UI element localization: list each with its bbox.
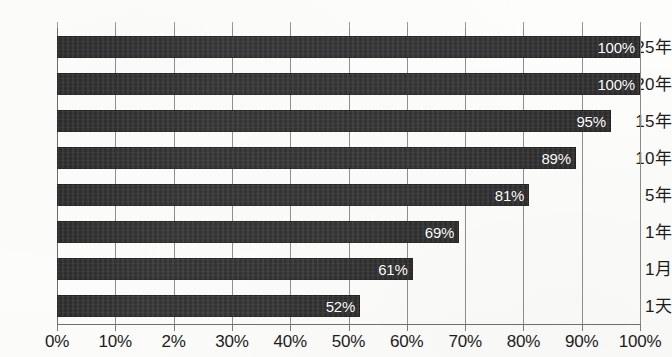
x-tick-label-5: 50% (332, 333, 365, 350)
tick-bottom-9 (582, 325, 583, 331)
tick-bottom-3 (232, 325, 233, 331)
bar-row: 100% (57, 73, 640, 95)
bar-row: 100% (57, 36, 640, 58)
bar-1年: 69% (57, 221, 459, 243)
x-tick-label-8: 80% (507, 333, 540, 350)
bar-value-label: 69% (425, 225, 454, 240)
bar-row: 81% (57, 184, 529, 206)
tick-bottom-10 (640, 325, 641, 331)
x-tick-label-6: 60% (390, 333, 423, 350)
bar-10年: 89% (57, 147, 576, 169)
tick-bottom-5 (349, 325, 350, 331)
x-tick-label-0: 0% (45, 333, 69, 350)
bar-row: 61% (57, 258, 413, 280)
tick-bottom-6 (407, 325, 408, 331)
bar-25年: 100% (57, 36, 640, 58)
plot-area: 100%100%95%89%81%69%61%52% (57, 28, 640, 325)
bar-15年: 95% (57, 110, 611, 132)
tick-bottom-4 (290, 325, 291, 331)
bar-5年: 81% (57, 184, 529, 206)
bar-row: 69% (57, 221, 459, 243)
bar-value-label: 95% (576, 113, 605, 128)
tick-bottom-1 (115, 325, 116, 331)
x-tick-label-9: 90% (565, 333, 598, 350)
bar-value-label: 100% (597, 76, 635, 91)
bar-value-label: 52% (326, 299, 355, 314)
bar-row: 95% (57, 110, 611, 132)
bar-row: 52% (57, 295, 360, 317)
x-tick-label-3: 30% (215, 333, 248, 350)
bar-1天: 52% (57, 295, 360, 317)
tick-bottom-8 (523, 325, 524, 331)
x-tick-label-10: 100% (619, 333, 662, 350)
x-tick-label-7: 70% (448, 333, 481, 350)
x-tick-label-4: 40% (273, 333, 306, 350)
bar-value-label: 61% (378, 262, 407, 277)
bar-chart: 25年20年15年10年5年1年1月1天 100%100%95%89%81%69… (0, 0, 672, 357)
bar-1月: 61% (57, 258, 413, 280)
bar-value-label: 89% (541, 150, 570, 165)
gridline-100pct (640, 28, 641, 325)
tick-bottom-2 (174, 325, 175, 331)
tick-bottom-0 (57, 325, 58, 331)
bar-value-label: 81% (495, 188, 524, 203)
bar-value-label: 100% (597, 39, 635, 54)
tick-bottom-7 (465, 325, 466, 331)
x-tick-label-2: 2% (162, 333, 186, 350)
x-tick-label-1: 10% (99, 333, 132, 350)
bar-20年: 100% (57, 73, 640, 95)
bar-row: 89% (57, 147, 576, 169)
